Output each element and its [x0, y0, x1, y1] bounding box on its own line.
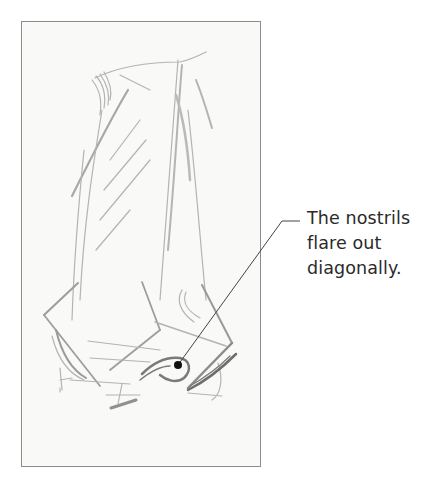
- callout-leader-line: [178, 221, 300, 365]
- callout-line-3: diagonally.: [307, 256, 410, 281]
- callout-line-1: The nostrils: [307, 206, 410, 231]
- callout-line-2: flare out: [307, 231, 410, 256]
- callout-dot: [174, 361, 182, 369]
- callout-label: The nostrils flare out diagonally.: [307, 206, 410, 281]
